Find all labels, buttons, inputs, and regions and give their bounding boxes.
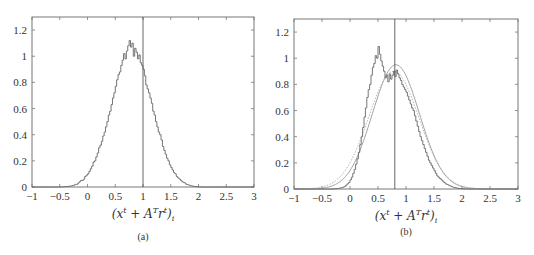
x-tick-label: 1 (403, 192, 409, 204)
histogram (294, 46, 518, 189)
x-tick-label: 1.5 (427, 192, 441, 204)
x-axis-label-part: + A (126, 207, 153, 221)
x-axis-label-part: i (172, 214, 175, 223)
x-tick-label: −0.5 (50, 190, 70, 202)
x-tick-label: −1 (288, 192, 300, 204)
panel-caption: (a) (137, 231, 148, 243)
y-tick-label: 0.4 (13, 129, 27, 141)
x-tick-label: 1 (140, 190, 146, 202)
curve-gaussian-reference (294, 71, 518, 189)
y-tick-label: 1 (22, 50, 28, 62)
y-tick-label: 0.6 (275, 105, 289, 117)
x-axis-label: (xt + ATrt)i (112, 206, 175, 223)
x-axis-label-part: (x (375, 209, 387, 223)
x-axis-label-part: (x (112, 207, 124, 221)
x-tick-label: 2.5 (483, 192, 497, 204)
x-tick-label: 2 (459, 192, 465, 204)
x-tick-label: 0.5 (108, 190, 122, 202)
panel-caption: (b) (400, 226, 412, 238)
x-axis-label: (xt + ATrt)i (375, 208, 438, 225)
x-tick-label: 0.5 (371, 192, 385, 204)
curve-gaussian-fit (294, 65, 518, 189)
y-tick-label: 1.2 (275, 26, 289, 38)
x-tick-label: 2.5 (219, 190, 233, 202)
y-tick-label: 0.4 (275, 131, 289, 143)
x-tick-label: 2 (196, 190, 202, 202)
x-tick-label: −0.5 (312, 192, 332, 204)
x-tick-label: 3 (251, 190, 257, 202)
x-axis-label-part: i (435, 216, 438, 225)
panel-a: −1−0.500.511.522.5300.20.40.60.811.2(xt … (13, 17, 257, 243)
x-tick-label: 1.5 (164, 190, 178, 202)
y-tick-label: 0 (22, 181, 28, 193)
panel-b: −1−0.500.511.522.5300.20.40.60.811.2(xt … (275, 19, 521, 238)
x-tick-label: 3 (515, 192, 521, 204)
y-tick-label: 0.2 (13, 155, 27, 167)
y-tick-label: 1 (284, 52, 290, 64)
y-tick-label: 0.2 (275, 157, 289, 169)
x-tick-label: 0 (85, 190, 91, 202)
axes-box (294, 19, 518, 189)
figure: −1−0.500.511.522.5300.20.40.60.811.2(xt … (0, 0, 534, 255)
y-tick-label: 0.8 (275, 78, 289, 90)
x-tick-label: −1 (26, 190, 38, 202)
x-tick-label: 0 (347, 192, 353, 204)
y-tick-label: 0.8 (13, 76, 27, 88)
y-tick-label: 0 (284, 183, 290, 195)
y-tick-label: 1.2 (13, 24, 27, 36)
y-tick-label: 0.6 (13, 103, 27, 115)
x-axis-label-part: + A (389, 209, 416, 223)
